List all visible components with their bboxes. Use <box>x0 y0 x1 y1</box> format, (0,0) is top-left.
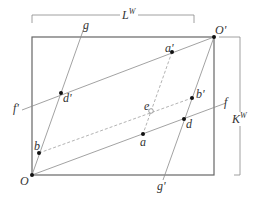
point-e <box>149 109 154 114</box>
label-f: f <box>224 95 229 109</box>
label-origin-prime: O' <box>215 23 227 37</box>
dashed-line-b-b-prime <box>39 98 192 153</box>
label-g: g <box>83 18 89 32</box>
diagram-canvas: LW KW O O' g g' f' f d' a' b a d b' e <box>0 0 259 203</box>
line-f <box>32 103 226 175</box>
label-d: d <box>186 117 193 131</box>
label-e: e <box>144 99 150 113</box>
label-g-prime: g' <box>157 179 166 193</box>
height-bracket <box>219 37 240 175</box>
line-f-prime <box>22 37 214 110</box>
frame-rectangle <box>32 37 214 175</box>
width-label: LW <box>121 7 137 22</box>
label-f-prime: f' <box>13 101 19 115</box>
dashed-line-a-a-prime <box>143 52 172 134</box>
label-d-prime: d' <box>63 91 72 105</box>
point-b-prime <box>190 96 194 100</box>
line-g-prime <box>163 37 214 180</box>
label-a: a <box>140 135 146 149</box>
point-o <box>30 173 34 177</box>
label-a-prime: a' <box>165 41 174 55</box>
label-origin: O <box>20 174 29 188</box>
width-bracket <box>32 15 194 23</box>
label-b: b <box>34 139 40 153</box>
height-label: KW <box>231 111 248 126</box>
label-b-prime: b' <box>196 87 205 101</box>
